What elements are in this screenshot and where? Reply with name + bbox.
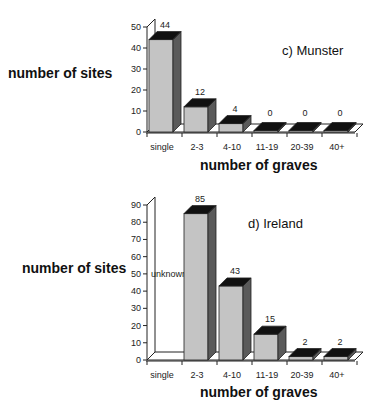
x-category-label: 40+ <box>329 370 344 380</box>
bar-value-label: 0 <box>337 108 342 118</box>
bar-value-label: 15 <box>265 314 275 324</box>
x-axis-label: number of graves <box>200 157 318 173</box>
bar-value-label: 0 <box>302 108 307 118</box>
bar <box>184 99 216 132</box>
bar-side <box>173 32 181 132</box>
y-tick-label: 30 <box>131 64 141 74</box>
y-tick-label: 20 <box>131 85 141 95</box>
bar-front <box>219 124 243 132</box>
y-axis-label: number of sites <box>8 65 112 81</box>
y-tick-label: 0 <box>136 355 141 365</box>
bar-front <box>184 107 208 132</box>
bar-value-label: 4 <box>232 104 237 114</box>
chart-munster: 01020304050single2-34-1011-1920-3940+441… <box>8 19 363 173</box>
bar <box>219 278 251 360</box>
chart-ireland: 0102030405060708090single2-34-1011-1920-… <box>22 194 363 400</box>
y-tick-label: 20 <box>131 321 141 331</box>
y-tick-label: 40 <box>131 286 141 296</box>
x-category-label: 4-10 <box>223 370 241 380</box>
x-category-label: single <box>150 370 174 380</box>
x-category-label: 11-19 <box>256 142 278 152</box>
bar-value-label: 2 <box>302 337 307 347</box>
y-tick-label: 90 <box>131 200 141 210</box>
bar-value-label: 12 <box>195 87 205 97</box>
bar-front <box>184 214 208 360</box>
y-tick-label: 50 <box>131 22 141 32</box>
x-axis-label: number of graves <box>200 384 318 400</box>
bar <box>184 206 216 360</box>
bar-side <box>243 278 251 360</box>
bar-front <box>324 357 348 360</box>
y-tick-label: 10 <box>131 106 141 116</box>
y-tick-label: 30 <box>131 303 141 313</box>
x-category-label: 40+ <box>329 142 344 152</box>
bar-value-label: 85 <box>195 194 205 204</box>
bar-value-label: 2 <box>337 337 342 347</box>
x-category-label: 11-19 <box>256 370 278 380</box>
unknown-annotation: unknown <box>151 269 187 279</box>
y-tick-label: 10 <box>131 338 141 348</box>
y-tick-label: 70 <box>131 234 141 244</box>
chart-title: d) Ireland <box>248 216 303 231</box>
bar <box>254 326 286 360</box>
x-category-label: 20-39 <box>290 370 313 380</box>
x-category-label: 2-3 <box>190 142 203 152</box>
y-tick-label: 60 <box>131 252 141 262</box>
y-tick-label: 50 <box>131 269 141 279</box>
x-category-label: single <box>150 142 174 152</box>
x-category-label: 4-10 <box>223 142 241 152</box>
bar-value-label: 44 <box>160 20 170 30</box>
bar-front <box>219 286 243 360</box>
chart-title: c) Munster <box>282 43 344 58</box>
bar <box>149 32 181 132</box>
bar-front <box>254 334 278 360</box>
chart-canvas: 01020304050single2-34-1011-1920-3940+441… <box>0 0 373 404</box>
bar-value-label: 0 <box>267 108 272 118</box>
y-tick-label: 80 <box>131 217 141 227</box>
bar-value-label: 43 <box>230 266 240 276</box>
x-category-label: 20-39 <box>290 142 313 152</box>
y-tick-label: 0 <box>136 127 141 137</box>
bar-side <box>208 206 216 360</box>
y-tick-label: 40 <box>131 43 141 53</box>
x-category-label: 2-3 <box>190 370 203 380</box>
y-axis-label: number of sites <box>22 260 126 276</box>
bar-front <box>149 40 173 132</box>
bar-front <box>289 357 313 360</box>
